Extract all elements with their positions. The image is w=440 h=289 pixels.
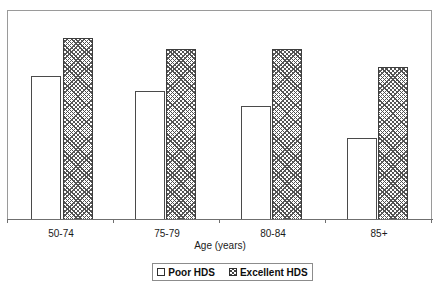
x-axis-label-50-74: 50-74 [16,228,106,240]
legend-label-poor-hds: Poor HDS [168,267,215,278]
x-axis-title: Age (years) [0,240,440,252]
x-axis-baseline [7,219,433,220]
x-axis-tick-0 [7,219,8,223]
chart-legend: Poor HDS Excellent HDS [152,263,313,281]
x-axis-label-85-plus: 85+ [334,228,424,240]
x-axis-tick-1 [113,219,114,223]
plot-area-frame [7,10,432,220]
x-axis-tick-3 [325,219,326,223]
hatched-square-swatch-icon [229,268,237,276]
empty-square-swatch-icon [157,268,165,276]
x-axis-label-80-84: 80-84 [228,228,318,240]
legend-label-excellent-hds: Excellent HDS [240,267,308,278]
x-axis-tick-4 [431,219,432,223]
legend-item-excellent-hds: Excellent HDS [229,267,308,278]
bar-chart: 77% 98% 69% 92% 61% 92% 44% 82% 50 [0,0,440,289]
x-axis-label-75-79: 75-79 [122,228,212,240]
x-axis-tick-2 [219,219,220,223]
legend-item-poor-hds: Poor HDS [157,267,215,278]
